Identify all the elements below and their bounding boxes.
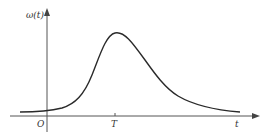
origin-label: O [37,119,45,129]
x-axis-label: t [235,119,239,129]
curve-omega [20,33,240,112]
tick-label-T: T [111,119,118,129]
x-axis-arrow-icon [252,113,260,119]
y-axis-arrow-icon [44,8,50,16]
y-axis-label: ω(t) [26,10,44,20]
chart-canvas: ω(t) t O T [0,0,268,135]
